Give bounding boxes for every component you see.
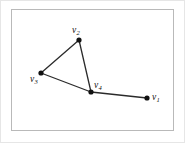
vertex-label-v3: v3 <box>30 75 38 85</box>
graph-vertex-v3 <box>38 70 43 75</box>
graph-edge-v3-v4 <box>41 73 91 92</box>
graph-drawing <box>0 0 185 143</box>
graph-edge-v4-v1 <box>91 92 147 98</box>
graph-edge-v3-v2 <box>41 40 79 73</box>
vertex-label-v1: v1 <box>152 93 160 103</box>
vertex-label-v2-subscript: 2 <box>76 29 79 36</box>
vertex-label-v4: v4 <box>94 81 102 91</box>
graph-vertices-group <box>38 37 149 100</box>
vertex-label-v3-subscript: 3 <box>34 78 37 85</box>
vertex-label-v4-subscript: 4 <box>98 84 101 91</box>
figure-container: v2 v3 v4 v1 <box>0 0 185 143</box>
graph-vertex-v2 <box>76 37 81 42</box>
vertex-label-v1-subscript: 1 <box>156 96 159 103</box>
graph-edge-v2-v4 <box>79 40 91 92</box>
graph-vertex-v1 <box>144 95 149 100</box>
graph-vertex-v4 <box>88 89 93 94</box>
vertex-label-v2: v2 <box>72 26 80 36</box>
